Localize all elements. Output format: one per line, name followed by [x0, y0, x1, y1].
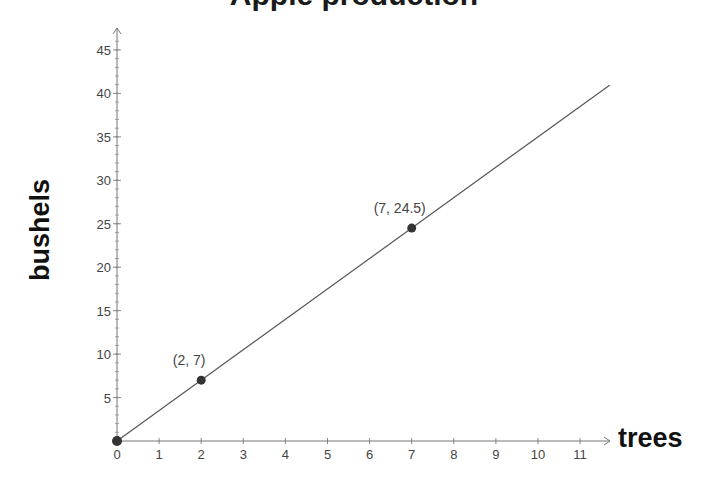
y-tick-label: 30: [97, 173, 111, 188]
y-tick-label: 10: [97, 347, 111, 362]
data-point: [112, 436, 122, 446]
x-tick-label: 7: [408, 447, 415, 462]
x-tick-label: 1: [155, 447, 162, 462]
x-axis-ticks: 01234567891011: [113, 438, 586, 462]
x-tick-label: 10: [531, 447, 545, 462]
y-tick-label: 20: [97, 260, 111, 275]
x-tick-label: 9: [492, 447, 499, 462]
x-tick-label: 11: [573, 447, 587, 462]
y-tick-label: 40: [97, 86, 111, 101]
x-tick-label: 3: [240, 447, 247, 462]
proportional-line: [117, 85, 610, 441]
y-tick-label: 25: [97, 217, 111, 232]
data-point: [407, 224, 416, 233]
y-tick-label: 15: [97, 304, 111, 319]
x-tick-label: 2: [198, 447, 205, 462]
y-tick-label: 5: [104, 391, 111, 406]
x-tick-label: 6: [366, 447, 373, 462]
y-tick-label: 45: [97, 43, 111, 58]
data-point: [197, 376, 206, 385]
point-label: (7, 24.5): [374, 200, 426, 216]
x-tick-label: 0: [113, 447, 120, 462]
point-label: (2, 7): [173, 352, 206, 368]
data-points: (2, 7)(7, 24.5): [112, 200, 426, 446]
x-tick-label: 4: [282, 447, 289, 462]
y-tick-label: 35: [97, 130, 111, 145]
x-axis-label: trees: [618, 423, 683, 453]
y-axis-label: bushels: [25, 179, 55, 281]
x-tick-label: 8: [450, 447, 457, 462]
line-chart: 01234567891011 51015202530354045 (2, 7)(…: [0, 0, 708, 487]
x-tick-label: 5: [324, 447, 331, 462]
